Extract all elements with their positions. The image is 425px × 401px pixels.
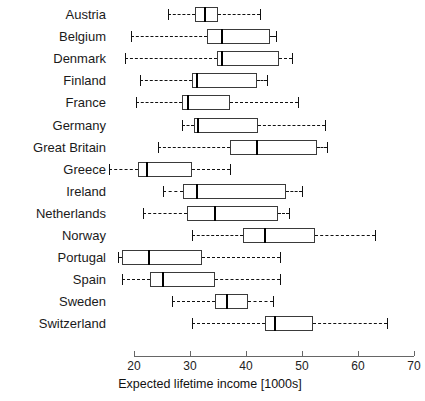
box-and-whisker bbox=[0, 137, 420, 159]
x-tick-label: 50 bbox=[282, 359, 322, 373]
whisker-low bbox=[172, 301, 215, 302]
box-and-whisker bbox=[0, 115, 420, 137]
median-line bbox=[196, 73, 198, 88]
x-tick-label: 60 bbox=[338, 359, 378, 373]
box-iqr bbox=[217, 51, 279, 66]
whisker-cap-low bbox=[131, 31, 132, 42]
whisker-cap-high bbox=[289, 208, 290, 219]
whisker-cap-high bbox=[267, 75, 268, 86]
x-tick-label: 70 bbox=[394, 359, 425, 373]
whisker-high bbox=[317, 147, 327, 148]
median-line bbox=[204, 7, 206, 22]
whisker-cap-low bbox=[192, 230, 193, 241]
whisker-high bbox=[202, 257, 280, 258]
whisker-cap-low bbox=[163, 186, 164, 197]
whisker-cap-low bbox=[168, 9, 169, 20]
whisker-cap-high bbox=[325, 120, 326, 131]
box-iqr bbox=[187, 206, 278, 221]
whisker-cap-high bbox=[387, 318, 388, 329]
boxplot-row: Denmark bbox=[0, 48, 420, 70]
box-iqr bbox=[243, 228, 315, 243]
whisker-cap-high bbox=[280, 252, 281, 263]
box-iqr bbox=[183, 184, 285, 199]
whisker-high bbox=[257, 80, 267, 81]
whisker-high bbox=[286, 191, 302, 192]
whisker-cap-low bbox=[118, 252, 119, 263]
whisker-cap-high bbox=[292, 53, 293, 64]
boxplot-row: Ireland bbox=[0, 181, 420, 203]
whisker-low bbox=[192, 235, 243, 236]
median-line bbox=[274, 316, 276, 331]
boxplot-row: Austria bbox=[0, 4, 420, 26]
box-and-whisker bbox=[0, 291, 420, 313]
whisker-high bbox=[279, 58, 292, 59]
box-and-whisker bbox=[0, 203, 420, 225]
whisker-high bbox=[192, 169, 230, 170]
median-line bbox=[162, 272, 164, 287]
box-and-whisker bbox=[0, 48, 420, 70]
whisker-cap-high bbox=[375, 230, 376, 241]
median-line bbox=[187, 95, 189, 110]
whisker-cap-low bbox=[136, 97, 137, 108]
median-line bbox=[221, 51, 223, 66]
box-iqr bbox=[182, 95, 230, 110]
box-iqr bbox=[194, 118, 258, 133]
box-iqr bbox=[195, 7, 218, 22]
whisker-low bbox=[158, 147, 230, 148]
box-and-whisker bbox=[0, 92, 420, 114]
box-and-whisker bbox=[0, 4, 420, 26]
x-tick bbox=[302, 351, 303, 356]
x-tick bbox=[246, 351, 247, 356]
whisker-low bbox=[136, 102, 182, 103]
x-tick-label: 20 bbox=[114, 359, 154, 373]
median-line bbox=[256, 140, 258, 155]
box-iqr bbox=[207, 29, 270, 44]
box-and-whisker bbox=[0, 225, 420, 247]
whisker-high bbox=[313, 323, 387, 324]
x-tick bbox=[358, 351, 359, 356]
whisker-high bbox=[215, 279, 280, 280]
median-line bbox=[214, 206, 216, 221]
median-line bbox=[148, 250, 150, 265]
box-iqr bbox=[230, 140, 317, 155]
box-iqr bbox=[192, 73, 257, 88]
x-axis-title: Expected lifetime income [1000s] bbox=[0, 377, 420, 391]
whisker-low bbox=[163, 191, 183, 192]
whisker-low bbox=[125, 58, 217, 59]
boxplot-row: Spain bbox=[0, 269, 420, 291]
whisker-high bbox=[248, 301, 273, 302]
x-tick-label: 40 bbox=[226, 359, 266, 373]
whisker-low bbox=[122, 279, 150, 280]
boxplot-row: Great Britain bbox=[0, 137, 420, 159]
median-line bbox=[197, 118, 199, 133]
whisker-cap-high bbox=[302, 186, 303, 197]
boxplot-row: Belgium bbox=[0, 26, 420, 48]
boxplot-row: Sweden bbox=[0, 291, 420, 313]
whisker-cap-low bbox=[122, 274, 123, 285]
whisker-cap-low bbox=[158, 142, 159, 153]
box-iqr bbox=[150, 272, 215, 287]
boxplot-row: Germany bbox=[0, 115, 420, 137]
whisker-cap-low bbox=[140, 75, 141, 86]
whisker-cap-low bbox=[182, 120, 183, 131]
whisker-high bbox=[230, 102, 298, 103]
median-line bbox=[264, 228, 266, 243]
boxplot-row: France bbox=[0, 92, 420, 114]
median-line bbox=[196, 184, 198, 199]
axis-line bbox=[134, 356, 414, 357]
whisker-high bbox=[258, 125, 325, 126]
whisker-cap-high bbox=[260, 9, 261, 20]
x-tick-label: 30 bbox=[170, 359, 210, 373]
median-line bbox=[221, 29, 223, 44]
boxplot-row: Portugal bbox=[0, 247, 420, 269]
median-line bbox=[146, 162, 148, 177]
whisker-low bbox=[143, 213, 187, 214]
whisker-high bbox=[218, 14, 260, 15]
boxplot-row: Finland bbox=[0, 70, 420, 92]
whisker-cap-low bbox=[143, 208, 144, 219]
whisker-low bbox=[131, 36, 207, 37]
box-iqr bbox=[215, 294, 248, 309]
whisker-cap-high bbox=[273, 296, 274, 307]
whisker-high bbox=[278, 213, 289, 214]
